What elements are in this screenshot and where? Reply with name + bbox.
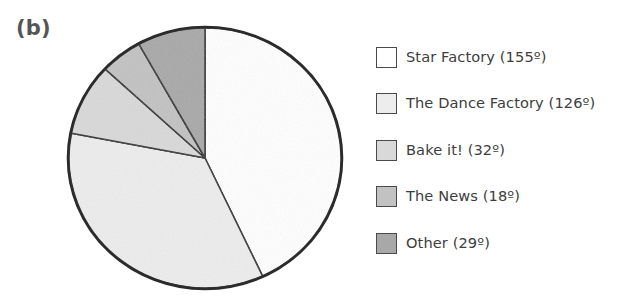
legend-swatch-other bbox=[376, 233, 397, 254]
legend-swatch-star-factory bbox=[376, 47, 397, 68]
pie-chart-figure: (b) Star Factory (155º) bbox=[0, 0, 644, 307]
legend-label-star-factory: Star Factory (155º) bbox=[406, 50, 547, 65]
legend-label-bake-it: Bake it! (32º) bbox=[406, 143, 505, 158]
legend-item-the-news[interactable]: The News (18º) bbox=[376, 174, 640, 221]
legend-item-star-factory[interactable]: Star Factory (155º) bbox=[376, 34, 640, 81]
pie-slices-group bbox=[69, 28, 341, 288]
pie-chart-plot-area bbox=[64, 22, 346, 294]
panel-label: (b) bbox=[16, 16, 51, 40]
legend-swatch-the-dance-factory bbox=[376, 93, 397, 114]
legend-item-bake-it[interactable]: Bake it! (32º) bbox=[376, 127, 640, 174]
legend-item-the-dance-factory[interactable]: The Dance Factory (126º) bbox=[376, 81, 640, 128]
pie-chart-svg bbox=[64, 22, 346, 294]
legend-swatch-bake-it bbox=[376, 140, 397, 161]
legend: Star Factory (155º) The Dance Factory (1… bbox=[376, 34, 640, 267]
legend-label-the-news: The News (18º) bbox=[406, 189, 520, 204]
legend-label-the-dance-factory: The Dance Factory (126º) bbox=[406, 96, 595, 111]
legend-label-other: Other (29º) bbox=[406, 236, 490, 251]
legend-swatch-the-news bbox=[376, 186, 397, 207]
legend-item-other[interactable]: Other (29º) bbox=[376, 220, 640, 267]
